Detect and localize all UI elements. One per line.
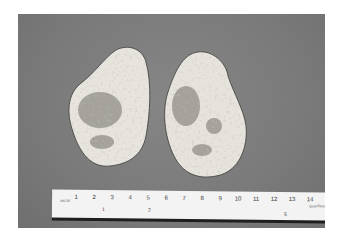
ruler-cm-label: 3 <box>106 194 118 200</box>
ruler-cm-label: 14 <box>304 196 316 202</box>
photograph: ABCDE 1 2 3 4 5 6 7 8 9 10 11 12 13 14 1… <box>18 14 325 228</box>
ruler-cm-label: 13 <box>286 196 298 202</box>
ruler-cm-label: 6 <box>160 195 172 201</box>
ruler-inch-label: 5 <box>284 211 287 217</box>
centimeter-ruler: ABCDE 1 2 3 4 5 6 7 8 9 10 11 12 13 14 1… <box>52 190 325 221</box>
ruler-brand: QuanTech <box>309 204 325 208</box>
ruler-cm-label: 8 <box>196 195 208 201</box>
ruler-cm-label: 9 <box>214 195 226 201</box>
ruler-cm-label: 1 <box>70 194 82 200</box>
ruler-cm-label: 10 <box>232 195 244 201</box>
ruler-cm-label: 11 <box>250 196 262 202</box>
ruler-logo: ABCDE <box>60 200 70 203</box>
ruler-cm-label: 2 <box>88 194 100 200</box>
ruler-cm-label: 5 <box>142 195 154 201</box>
ruler-inch-label: 1 <box>102 206 105 212</box>
ruler-cm-label: 4 <box>124 194 136 200</box>
ruler-cm-label: 7 <box>178 195 190 201</box>
ruler-inch-label: 2 <box>148 207 151 213</box>
ruler-cm-label: 12 <box>268 196 280 202</box>
